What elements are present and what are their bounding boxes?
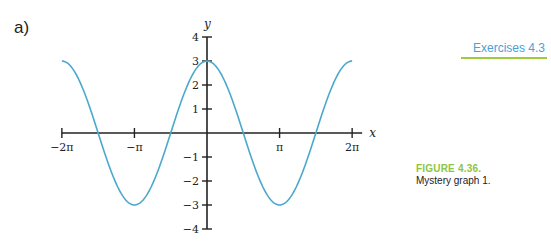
section-tag: Exercises 4.3: [473, 41, 545, 55]
y-tick-label: 2: [192, 79, 199, 92]
y-tick-label: −2: [183, 175, 199, 188]
x-tick-label: −2π: [50, 141, 73, 154]
x-tick-label: −π: [126, 141, 142, 154]
y-tick-label: 4: [192, 31, 199, 44]
y-tick-label: 1: [192, 103, 199, 116]
section-divider: [461, 57, 547, 59]
y-tick-label: −4: [183, 223, 199, 236]
y-tick-label: −3: [183, 199, 199, 212]
x-tick-label: π: [276, 141, 283, 154]
axes: xy: [62, 17, 376, 229]
y-axis-label: y: [203, 17, 211, 31]
figure-caption: Mystery graph 1.: [416, 175, 490, 186]
x-tick-label: 2π: [345, 141, 359, 154]
function-plot: xy −2π−ππ2π4321−1−2−3−4: [0, 0, 551, 246]
y-tick-label: −1: [183, 151, 199, 164]
figure-title: FIGURE 4.36.: [416, 163, 481, 174]
x-axis-label: x: [369, 126, 376, 140]
